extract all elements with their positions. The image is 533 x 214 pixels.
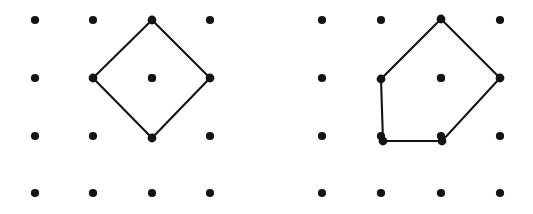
interior-lattice-dot	[437, 74, 445, 82]
lattice-dot	[437, 189, 445, 197]
lattice-dot	[89, 189, 97, 197]
lattice-dot	[496, 16, 504, 24]
lattice-dot	[148, 189, 156, 197]
interior-lattice-dot	[148, 74, 156, 82]
polygon-vertex-dot	[89, 74, 98, 83]
lattice-polygon-figure	[0, 0, 533, 214]
lattice-dot	[206, 189, 214, 197]
lattice-dot	[318, 16, 326, 24]
right-interior-points	[437, 74, 445, 82]
left-interior-points	[148, 74, 156, 82]
lattice-dot	[496, 132, 504, 140]
lattice-dot	[318, 132, 326, 140]
polygon-vertex-dot	[148, 16, 157, 25]
polygon-vertex-dot	[379, 137, 388, 146]
polygon-vertex-dot	[148, 134, 157, 143]
lattice-dot	[318, 74, 326, 82]
lattice-dot	[31, 132, 39, 140]
lattice-dot	[89, 16, 97, 24]
polygon-vertex-dot	[438, 137, 447, 146]
polygon-vertex-dot	[377, 75, 386, 84]
polygon-vertex-dot	[496, 74, 505, 83]
lattice-dot	[206, 132, 214, 140]
figure-canvas	[0, 0, 533, 214]
lattice-dot	[31, 74, 39, 82]
lattice-dot	[318, 189, 326, 197]
lattice-dot	[377, 16, 385, 24]
lattice-dot	[31, 16, 39, 24]
lattice-dot	[31, 189, 39, 197]
lattice-dot	[89, 132, 97, 140]
lattice-dot	[496, 189, 504, 197]
lattice-dot	[377, 189, 385, 197]
polygon-vertex-dot	[206, 74, 215, 83]
lattice-dot	[206, 16, 214, 24]
polygon-vertex-dot	[437, 15, 446, 24]
